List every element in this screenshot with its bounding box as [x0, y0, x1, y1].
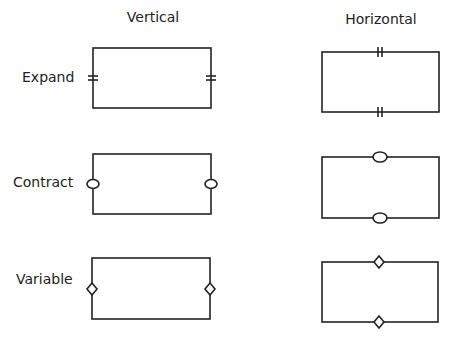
box-vertical-contract: [87, 154, 217, 214]
box-vertical-expand: [88, 48, 216, 108]
oval-icon-right: [205, 180, 217, 189]
constraint-diagram: [0, 0, 453, 340]
box-horizontal-contract: [322, 152, 439, 223]
diamond-icon-bottom: [374, 316, 384, 328]
diamond-icon-left: [87, 283, 97, 295]
oval-icon-top: [373, 152, 387, 162]
box-vertical-variable: [87, 258, 215, 319]
box-horizontal-variable: [322, 256, 438, 328]
oval-icon-left: [87, 180, 99, 189]
oval-icon-bottom: [373, 213, 387, 223]
diamond-icon-right: [205, 283, 215, 295]
diamond-icon-top: [374, 256, 384, 268]
box-horizontal-expand: [322, 47, 439, 117]
